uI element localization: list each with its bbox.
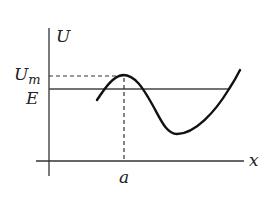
y-axis-label: U bbox=[56, 26, 71, 46]
x-axis-label: x bbox=[249, 150, 259, 170]
potential-energy-diagram: U x Um E a bbox=[0, 0, 277, 197]
energy-label: E bbox=[25, 88, 39, 108]
peak-energy-label-subscript: m bbox=[28, 72, 40, 87]
potential-curve bbox=[97, 70, 240, 134]
peak-energy-label: Um bbox=[14, 64, 41, 87]
peak-energy-label-main: U bbox=[14, 64, 29, 84]
peak-position-label: a bbox=[119, 167, 129, 187]
